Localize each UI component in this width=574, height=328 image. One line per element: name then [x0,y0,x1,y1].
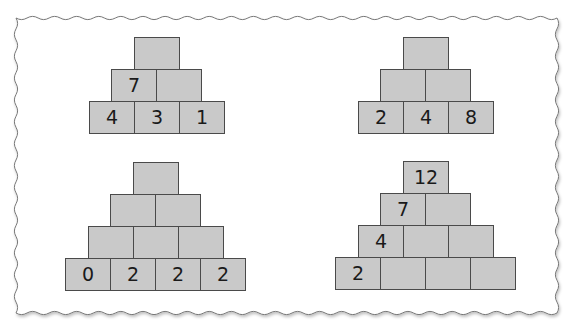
pyramid-cell[interactable] [470,257,516,290]
pyramid-cell[interactable] [88,226,134,259]
pyramid-cell[interactable] [380,257,426,290]
pyramid-cell[interactable]: 8 [448,101,494,134]
pyramid-cell[interactable]: 0 [65,258,111,291]
pyramid-cell[interactable]: 12 [403,161,449,194]
pyramid-cell[interactable]: 2 [155,258,201,291]
cell-value: 2 [156,259,200,289]
pyramid-cell[interactable]: 2 [110,258,156,291]
pyramid-cell[interactable] [156,69,202,102]
cell-value: 0 [66,259,110,289]
pyramid-cell[interactable]: 2 [358,101,404,134]
cell-value: 4 [359,226,403,256]
pyramid-cell[interactable] [403,37,449,70]
pyramid-cell[interactable] [133,162,179,195]
pyramid-cell[interactable] [380,69,426,102]
pyramid-cell[interactable] [155,194,201,227]
pyramid-cell[interactable]: 2 [335,257,381,290]
pyramid-cell[interactable] [425,257,471,290]
pyramid-cell[interactable]: 1 [179,101,225,134]
cell-value: 1 [180,102,224,132]
cell-value: 4 [404,102,448,132]
pyramid-cell[interactable] [133,226,179,259]
pyramid-cell[interactable]: 7 [111,69,157,102]
pyramid-cell[interactable]: 4 [403,101,449,134]
pyramid-cell[interactable]: 3 [134,101,180,134]
cell-value: 7 [381,194,425,224]
pyramid-cell[interactable]: 4 [358,225,404,258]
pyramid-cell[interactable] [178,226,224,259]
cell-value: 7 [112,70,156,100]
pyramid-cell[interactable]: 4 [89,101,135,134]
cell-value: 3 [135,102,179,132]
cell-value: 2 [336,258,380,288]
cell-value: 8 [449,102,493,132]
cell-value: 2 [359,102,403,132]
pyramid-cell[interactable]: 2 [200,258,246,291]
pyramid-cell[interactable] [110,194,156,227]
pyramid-cell[interactable] [448,225,494,258]
cell-value: 12 [404,162,448,192]
pyramid-cell[interactable] [403,225,449,258]
pyramid-cell[interactable] [134,37,180,70]
cell-value: 2 [111,259,155,289]
pyramid-cell[interactable] [425,69,471,102]
pyramid-cell[interactable] [425,193,471,226]
pyramid-cell[interactable]: 7 [380,193,426,226]
cell-value: 2 [201,259,245,289]
cell-value: 4 [90,102,134,132]
